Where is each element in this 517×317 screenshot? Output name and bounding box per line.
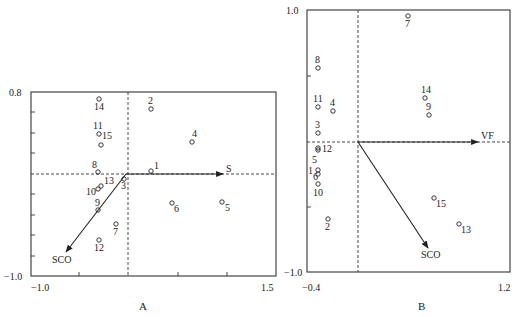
- data-point: 2: [325, 217, 330, 232]
- panel-b-label: B: [418, 300, 425, 312]
- panel-b: 1.0 −1.0 −0.4 1.2 B VF SCO 1 2 3 4 5 6 7…: [284, 5, 511, 312]
- svg-text:10: 10: [313, 187, 323, 198]
- data-point: 10: [86, 186, 100, 197]
- panel-a: 0.8 −1.0 −1.0 1.5 A S SCO 1 2 3 4 5 6 7 …: [4, 87, 276, 312]
- data-point: 14: [94, 97, 104, 112]
- panel-b-frame: [307, 10, 510, 272]
- svg-text:12: 12: [322, 143, 332, 154]
- svg-text:6: 6: [174, 203, 179, 214]
- panel-a-x-left: −1.0: [31, 282, 49, 293]
- svg-text:8: 8: [92, 159, 97, 170]
- data-point: 2: [148, 95, 153, 111]
- panel-a-x-ticks: [79, 272, 227, 276]
- svg-text:2: 2: [148, 95, 153, 106]
- svg-text:4: 4: [330, 97, 335, 108]
- svg-text:7: 7: [113, 226, 118, 237]
- data-point: 12: [94, 238, 104, 253]
- data-point: 9: [426, 101, 431, 117]
- svg-text:5: 5: [312, 154, 317, 165]
- panel-a-frame: [31, 92, 276, 276]
- panel-b-points: 1 2 3 4 5 6 7 8 9 10 11 12 13 14 15: [308, 14, 471, 235]
- data-point: 13: [457, 222, 471, 235]
- svg-text:4: 4: [192, 128, 197, 139]
- svg-text:13: 13: [461, 224, 471, 235]
- panel-b-vector-sco-label: SCO: [421, 249, 440, 260]
- panel-a-y-ticks: [31, 112, 35, 256]
- svg-text:14: 14: [94, 101, 104, 112]
- svg-text:1: 1: [154, 160, 159, 171]
- panel-a-x-right: 1.5: [261, 282, 274, 293]
- svg-text:2: 2: [325, 221, 330, 232]
- svg-text:15: 15: [436, 198, 446, 209]
- svg-text:8: 8: [315, 54, 320, 65]
- svg-text:12: 12: [94, 242, 104, 253]
- data-point: 4: [330, 97, 335, 113]
- svg-text:13: 13: [104, 175, 114, 186]
- data-point: 15: [432, 196, 446, 209]
- svg-text:11: 11: [313, 93, 323, 104]
- data-point: 3: [121, 177, 126, 191]
- panel-b-y-ticks: [307, 76, 311, 207]
- panel-b-vector-sco: [358, 142, 428, 248]
- svg-text:3: 3: [315, 119, 320, 130]
- data-point: 1: [149, 160, 159, 173]
- data-point: 11: [313, 93, 323, 109]
- svg-text:9: 9: [426, 101, 431, 112]
- panel-a-vector-sco-label: SCO: [52, 254, 71, 265]
- panel-b-y-bottom: −1.0: [284, 267, 302, 278]
- data-point: 7: [113, 222, 118, 237]
- svg-text:6: 6: [313, 171, 318, 182]
- data-point: 5: [220, 200, 230, 213]
- biplot-figure: 0.8 −1.0 −1.0 1.5 A S SCO 1 2 3 4 5 6 7 …: [0, 0, 517, 317]
- panel-a-y-top: 0.8: [9, 87, 22, 98]
- data-point: 3: [315, 119, 320, 135]
- panel-b-x-right: 1.2: [498, 282, 511, 293]
- panel-a-vector-sco: [66, 174, 126, 252]
- data-point: 13: [99, 175, 114, 188]
- panel-a-vector-s-label: S: [226, 163, 232, 174]
- svg-text:14: 14: [421, 84, 431, 95]
- svg-text:7: 7: [405, 18, 410, 29]
- data-point: 6: [313, 171, 320, 182]
- data-point: 8: [92, 159, 100, 174]
- svg-text:5: 5: [225, 202, 230, 213]
- panel-b-vector-vf-label: VF: [481, 130, 494, 141]
- data-point: 8: [315, 54, 320, 70]
- data-point: 14: [421, 84, 431, 100]
- svg-text:3: 3: [121, 180, 126, 191]
- data-point: 6: [170, 201, 179, 214]
- panel-a-y-bottom: −1.0: [4, 271, 22, 282]
- panel-b-x-left: −0.4: [302, 282, 320, 293]
- data-point: 7: [405, 14, 410, 29]
- svg-text:9: 9: [95, 197, 100, 208]
- data-point: 9: [95, 197, 100, 212]
- svg-text:10: 10: [86, 186, 96, 197]
- svg-text:15: 15: [102, 130, 112, 141]
- panel-a-label: A: [139, 300, 147, 312]
- data-point: 4: [190, 128, 197, 144]
- data-point: 10: [313, 182, 323, 198]
- panel-b-y-top: 1.0: [286, 5, 299, 16]
